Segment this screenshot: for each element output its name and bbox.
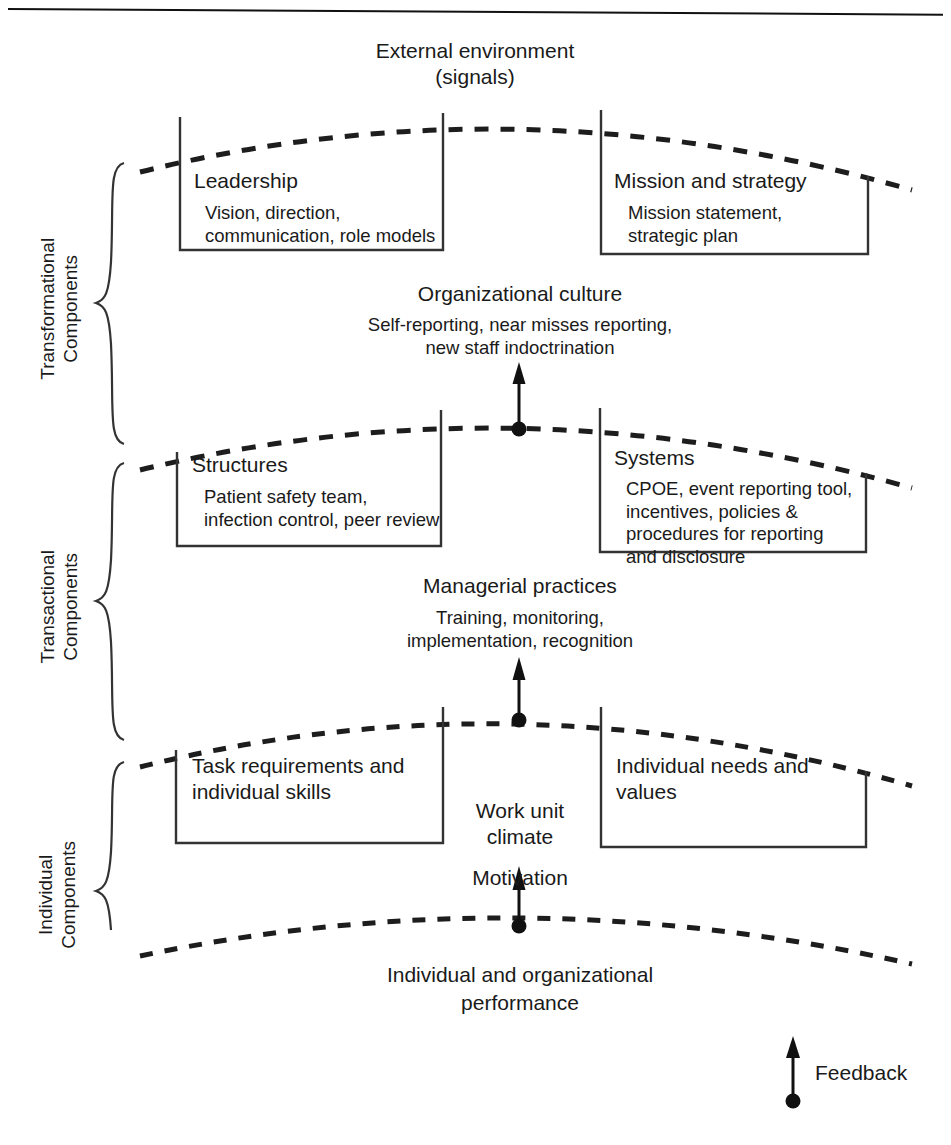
task-requirements-heading: Task requirements and individual skills — [192, 753, 404, 804]
brace-transactional — [96, 463, 124, 740]
systems-heading: Systems — [614, 445, 695, 471]
mission-strategy-heading: Mission and strategy — [614, 168, 807, 194]
diagram-canvas: External environment (signals) — [0, 0, 951, 1145]
organizational-culture-heading: Organizational culture — [320, 281, 720, 307]
arrow-motivation-dot — [512, 919, 527, 934]
organizational-culture-detail: Self-reporting, near misses reporting, n… — [300, 314, 740, 359]
side-label-transformational: Transformational Components — [37, 209, 83, 409]
work-unit-climate-heading: Work unit climate — [420, 798, 620, 849]
side-label-transactional: Transactional Components — [37, 507, 83, 707]
individual-needs-heading: Individual needs and values — [616, 753, 809, 804]
leadership-heading: Leadership — [194, 168, 298, 194]
arrow-culture-dot — [512, 422, 527, 437]
external-environment-line1: External environment — [300, 38, 650, 64]
systems-detail: CPOE, event reporting tool, incentives, … — [626, 478, 852, 568]
external-environment-line2: (signals) — [300, 64, 650, 90]
brace-transformational — [96, 163, 124, 444]
arrow-feedback-head — [786, 1036, 800, 1058]
leadership-detail: Vision, direction, communication, role m… — [205, 202, 435, 247]
brace-individual — [96, 762, 124, 930]
managerial-practices-detail: Training, monitoring, implementation, re… — [310, 607, 730, 652]
motivation-label: Motivation — [420, 865, 620, 891]
structures-heading: Structures — [192, 452, 288, 478]
arrow-culture-head — [513, 362, 526, 384]
arrow-managerial-dot — [512, 713, 527, 728]
page-top-rule — [8, 8, 943, 16]
structures-detail: Patient safety team, infection control, … — [204, 486, 439, 531]
managerial-practices-heading: Managerial practices — [320, 573, 720, 599]
performance-line2: performance — [300, 990, 740, 1016]
arrow-feedback-dot — [786, 1094, 801, 1109]
mission-strategy-detail: Mission statement, strategic plan — [628, 202, 782, 247]
feedback-label: Feedback — [815, 1060, 907, 1086]
arc-individual-boundary — [140, 918, 912, 964]
side-label-individual: Individual Components — [35, 795, 81, 995]
arrow-managerial-head — [513, 657, 526, 680]
performance-line1: Individual and organizational — [300, 962, 740, 988]
